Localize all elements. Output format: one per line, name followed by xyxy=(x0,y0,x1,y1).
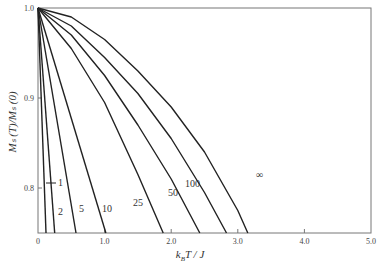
y-tick-labels: 0.80.91.0 xyxy=(24,4,34,193)
curve-label-5: 5 xyxy=(79,203,84,214)
curve-5 xyxy=(38,8,76,233)
x-tick-label: 4.0 xyxy=(299,237,309,246)
curve-label-50: 50 xyxy=(168,187,178,198)
chart: 01.02.03.04.05.0 0.80.91.0 125102550100∞… xyxy=(0,0,384,266)
x-axis-title: kBT / J xyxy=(176,248,206,263)
curve-50 xyxy=(38,8,200,233)
curve-label-100: 100 xyxy=(185,178,200,189)
y-tick-label: 1.0 xyxy=(24,4,34,13)
y-tick-label: 0.8 xyxy=(24,184,34,193)
y-axis-title: Mₛ (T)/Mₛ (0) xyxy=(6,91,19,153)
curve-10 xyxy=(38,8,106,233)
curve-label-25: 25 xyxy=(133,197,143,208)
curve-2 xyxy=(38,8,55,233)
x-tick-label: 2.0 xyxy=(166,237,176,246)
curve-label-10: 10 xyxy=(102,203,112,214)
curve-1 xyxy=(38,8,46,233)
x-tick-label: 0 xyxy=(36,237,40,246)
curve-label-1: 1 xyxy=(58,177,63,188)
x-tick-label: 3.0 xyxy=(233,237,243,246)
x-tick-labels: 01.02.03.04.05.0 xyxy=(36,237,376,246)
curve-label-2: 2 xyxy=(58,206,63,217)
x-tick-label: 1.0 xyxy=(100,237,110,246)
x-tick-label: 5.0 xyxy=(366,237,376,246)
curve-labels: 125102550100∞ xyxy=(46,169,263,217)
curve-label-infinity: ∞ xyxy=(256,169,263,180)
y-tick-label: 0.9 xyxy=(24,94,34,103)
x-ticks xyxy=(105,229,305,233)
